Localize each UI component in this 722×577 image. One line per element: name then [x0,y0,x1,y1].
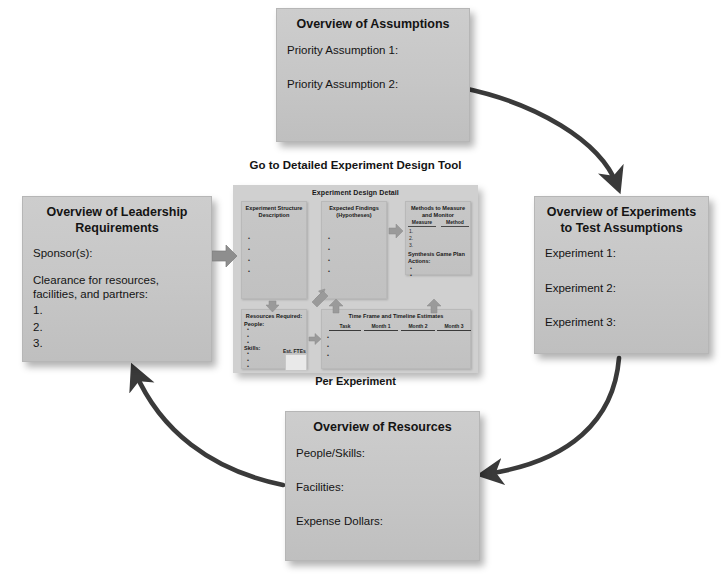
tool-caption[interactable]: Go to Detailed Experiment Design Tool [233,158,478,173]
resource-row-3: Expense Dollars: [296,514,469,528]
box-overview-of-leadership-requirements[interactable]: Overview of Leadership Requirements Spon… [22,196,212,362]
leadership-item-1: 1. [33,303,201,317]
assumption-row-1: Priority Assumption 1: [287,43,459,57]
leadership-sponsor: Sponsor(s): [33,246,201,260]
box-title: Overview of Resources [296,420,469,436]
box-overview-of-assumptions[interactable]: Overview of Assumptions Priority Assumpt… [276,8,470,142]
assumption-row-2: Priority Assumption 2: [287,77,459,91]
arrow-right-block-icon [212,243,238,269]
box-title: Overview of Leadership Requirements [33,205,201,236]
arrow-experiments-to-resources [486,358,619,474]
box-title: Overview of Assumptions [287,17,459,33]
box-title: Overview of Experiments to Test Assumpti… [545,205,698,236]
arrow-resources-to-leadership [135,372,283,485]
leadership-item-3: 3. [33,336,201,350]
box-overview-of-experiments[interactable]: Overview of Experiments to Test Assumpti… [534,196,709,354]
box-overview-of-resources[interactable]: Overview of Resources People/Skills: Fac… [285,411,480,561]
experiment-row-2: Experiment 2: [545,281,698,295]
experiment-row-1: Experiment 1: [545,246,698,260]
leadership-item-2: 2. [33,320,201,334]
resource-row-2: Facilities: [296,480,469,494]
diagram-canvas: Overview of Assumptions Priority Assumpt… [0,0,722,577]
experiment-design-tool-panel[interactable]: Experiment Design Detail Experiment Stru… [233,185,478,373]
internal-flow-arrows [233,185,478,373]
arrow-assumptions-to-experiments [463,88,617,185]
tool-footer-label: Per Experiment [233,375,478,387]
experiment-row-3: Experiment 3: [545,315,698,329]
resource-row-1: People/Skills: [296,446,469,460]
leadership-clearance: Clearance for resources, facilities, and… [33,273,201,302]
